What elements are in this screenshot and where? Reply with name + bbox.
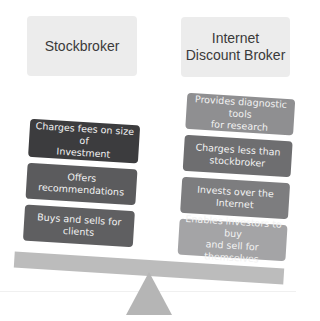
stockbroker-header: Stockbroker [27,16,137,76]
block-label: Charges less than stockbroker [194,141,280,170]
block-buys-and-sells: Buys and sells for clients [23,205,135,248]
stockbroker-block-stack: Charges fees on size of Investment Offer… [22,119,140,265]
block-label: Offers recommendations [29,169,134,199]
fulcrum-triangle-icon [126,272,172,315]
stockbroker-title: Stockbroker [45,38,120,55]
block-charges-fees: Charges fees on size of Investment [28,119,140,164]
block-label: Invests over the Internet [183,183,286,213]
internet-discount-broker-block-stack: Provides diagnostic tools for research C… [177,93,295,274]
block-label: Buys and sells for clients [26,211,131,241]
block-offers-recommendations: Offers recommendations [25,163,137,206]
block-label: Enables investors to buy and sell for th… [180,213,285,267]
block-label: Provides diagnostic tools for research [188,93,292,135]
internet-discount-broker-title: Internet Discount Broker [186,30,286,64]
block-charges-less: Charges less than stockbroker [183,135,293,178]
block-label: Charges fees on size of Investment [31,120,137,162]
internet-discount-broker-header: Internet Discount Broker [181,17,290,77]
block-diagnostic-tools: Provides diagnostic tools for research [185,93,295,136]
block-enables-investors: Enables investors to buy and sell for th… [178,219,288,262]
